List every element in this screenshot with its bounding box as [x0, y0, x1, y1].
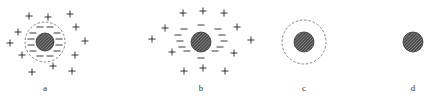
panel-d: d — [403, 32, 423, 93]
plus-charge-icon — [231, 50, 238, 57]
plus-charge-icon — [200, 8, 207, 15]
charged-particle-core — [36, 33, 54, 51]
plus-charge-icon — [248, 37, 255, 44]
plus-charge-icon — [19, 52, 26, 59]
plus-charge-icon — [149, 36, 156, 43]
panel-label: c — [302, 83, 306, 93]
panel-c: c — [282, 20, 326, 93]
plus-charge-icon — [29, 69, 36, 76]
panel-label: b — [199, 83, 204, 93]
plus-charge-icon — [50, 63, 57, 70]
plus-charge-icon — [234, 24, 241, 31]
plus-charge-icon — [45, 14, 52, 21]
plus-charge-icon — [222, 68, 229, 75]
plus-charge-icon — [7, 40, 14, 47]
plus-charge-icon — [26, 13, 33, 20]
plus-charge-icon — [162, 25, 169, 32]
panel-a: a — [7, 11, 89, 94]
charged-particle-core — [403, 32, 423, 52]
ion-atmosphere-diagram: abcd — [0, 0, 437, 100]
plus-charge-icon — [67, 11, 74, 18]
plus-charge-icon — [181, 68, 188, 75]
plus-charge-icon — [69, 68, 76, 75]
plus-charge-icon — [200, 65, 207, 72]
plus-charge-icon — [72, 52, 79, 59]
charged-particle-core — [191, 32, 211, 52]
panel-label: d — [411, 83, 416, 93]
plus-charge-icon — [169, 49, 176, 56]
charged-particle-core — [294, 32, 314, 52]
plus-charge-icon — [221, 10, 228, 17]
plus-charge-icon — [15, 29, 22, 36]
plus-charge-icon — [180, 10, 187, 17]
panel-b: b — [149, 8, 255, 94]
plus-charge-icon — [82, 38, 89, 45]
plus-charge-icon — [73, 24, 80, 31]
panel-label: a — [43, 83, 47, 93]
